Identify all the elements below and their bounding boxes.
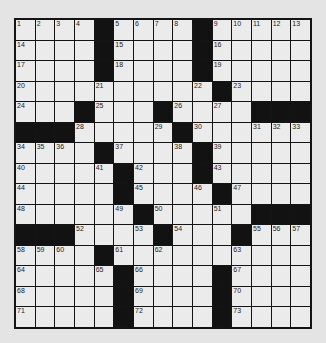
crossword-cell[interactable] [36,307,55,327]
crossword-cell[interactable] [173,164,192,184]
crossword-cell[interactable]: 36 [55,143,74,163]
crossword-cell[interactable] [291,266,310,286]
crossword-cell[interactable]: 18 [114,61,133,81]
crossword-cell[interactable] [75,61,94,81]
crossword-cell[interactable]: 35 [36,143,55,163]
crossword-cell[interactable]: 60 [55,246,74,266]
crossword-cell[interactable] [232,41,251,61]
crossword-cell[interactable] [252,82,271,102]
crossword-cell[interactable]: 30 [193,123,212,143]
crossword-cell[interactable]: 20 [16,82,35,102]
crossword-cell[interactable]: 13 [291,20,310,40]
crossword-cell[interactable] [173,61,192,81]
crossword-cell[interactable] [193,102,212,122]
crossword-cell[interactable] [95,205,114,225]
crossword-cell[interactable] [193,307,212,327]
crossword-cell[interactable] [232,164,251,184]
crossword-cell[interactable]: 24 [16,102,35,122]
crossword-cell[interactable] [193,225,212,245]
crossword-cell[interactable]: 14 [16,41,35,61]
crossword-cell[interactable] [291,143,310,163]
crossword-cell[interactable]: 53 [134,225,153,245]
crossword-cell[interactable] [173,287,192,307]
crossword-cell[interactable]: 21 [95,82,114,102]
crossword-cell[interactable] [193,246,212,266]
crossword-cell[interactable] [173,41,192,61]
crossword-cell[interactable]: 64 [16,266,35,286]
crossword-cell[interactable] [173,266,192,286]
crossword-cell[interactable] [55,82,74,102]
crossword-cell[interactable] [75,164,94,184]
crossword-cell[interactable] [272,164,291,184]
crossword-cell[interactable]: 73 [232,307,251,327]
crossword-cell[interactable] [272,82,291,102]
crossword-cell[interactable]: 12 [272,20,291,40]
crossword-cell[interactable]: 8 [173,20,192,40]
crossword-cell[interactable]: 59 [36,246,55,266]
crossword-cell[interactable]: 71 [16,307,35,327]
crossword-cell[interactable] [272,184,291,204]
crossword-cell[interactable] [252,287,271,307]
crossword-cell[interactable]: 22 [193,82,212,102]
crossword-cell[interactable] [193,287,212,307]
crossword-cell[interactable]: 66 [134,266,153,286]
crossword-cell[interactable] [55,266,74,286]
crossword-cell[interactable] [193,266,212,286]
crossword-cell[interactable] [291,41,310,61]
crossword-cell[interactable] [272,41,291,61]
crossword-cell[interactable]: 41 [95,164,114,184]
crossword-cell[interactable]: 39 [213,143,232,163]
crossword-cell[interactable] [272,307,291,327]
crossword-cell[interactable] [55,61,74,81]
crossword-cell[interactable] [291,184,310,204]
crossword-cell[interactable] [154,82,173,102]
crossword-cell[interactable] [95,184,114,204]
crossword-cell[interactable]: 11 [252,20,271,40]
crossword-cell[interactable] [173,184,192,204]
crossword-cell[interactable]: 54 [173,225,192,245]
crossword-cell[interactable]: 29 [154,123,173,143]
crossword-cell[interactable] [95,225,114,245]
crossword-cell[interactable] [173,246,192,266]
crossword-cell[interactable] [55,184,74,204]
crossword-cell[interactable] [252,307,271,327]
crossword-cell[interactable]: 33 [291,123,310,143]
crossword-cell[interactable] [291,164,310,184]
crossword-cell[interactable]: 2 [36,20,55,40]
crossword-cell[interactable] [36,82,55,102]
crossword-cell[interactable]: 6 [134,20,153,40]
crossword-cell[interactable] [173,82,192,102]
crossword-cell[interactable]: 42 [134,164,153,184]
crossword-cell[interactable] [252,184,271,204]
crossword-cell[interactable] [75,82,94,102]
crossword-cell[interactable]: 7 [154,20,173,40]
crossword-cell[interactable] [272,246,291,266]
crossword-cell[interactable]: 52 [75,225,94,245]
crossword-cell[interactable]: 34 [16,143,35,163]
crossword-cell[interactable]: 3 [55,20,74,40]
crossword-cell[interactable] [272,143,291,163]
crossword-cell[interactable]: 67 [232,266,251,286]
crossword-cell[interactable] [291,287,310,307]
crossword-cell[interactable] [154,41,173,61]
crossword-cell[interactable] [36,184,55,204]
crossword-cell[interactable] [272,266,291,286]
crossword-cell[interactable] [36,164,55,184]
crossword-cell[interactable] [75,307,94,327]
crossword-cell[interactable]: 57 [291,225,310,245]
crossword-cell[interactable] [95,307,114,327]
crossword-cell[interactable] [134,61,153,81]
crossword-cell[interactable] [114,82,133,102]
crossword-cell[interactable] [134,82,153,102]
crossword-cell[interactable]: 51 [213,205,232,225]
crossword-cell[interactable] [75,143,94,163]
crossword-cell[interactable] [36,61,55,81]
crossword-cell[interactable]: 65 [95,266,114,286]
crossword-cell[interactable] [134,102,153,122]
crossword-cell[interactable]: 9 [213,20,232,40]
crossword-cell[interactable] [114,123,133,143]
crossword-cell[interactable]: 38 [173,143,192,163]
crossword-cell[interactable]: 69 [134,287,153,307]
crossword-cell[interactable] [213,225,232,245]
crossword-cell[interactable] [36,41,55,61]
